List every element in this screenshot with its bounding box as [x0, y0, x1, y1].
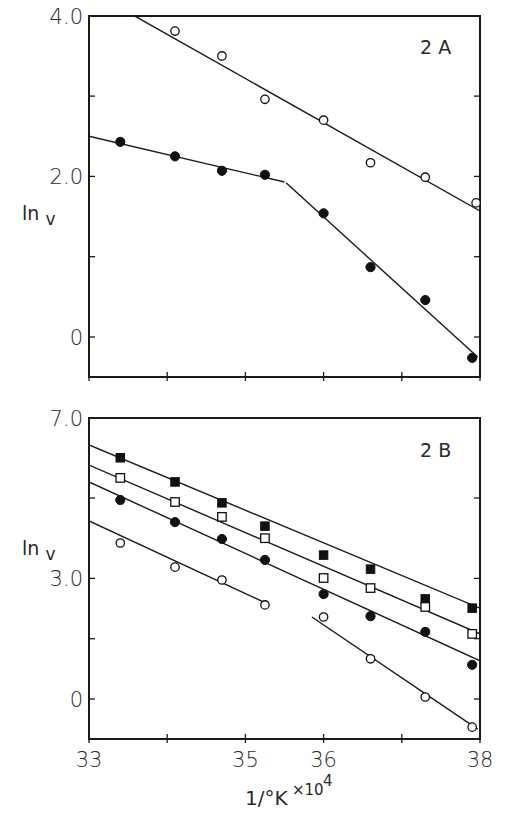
data-point [319, 116, 327, 124]
panel-label: 2 A [420, 36, 451, 58]
series-open-squares [89, 465, 480, 638]
arrhenius-figure: 4.02.00ln v2 A 7.03.0033353638ln v2 B 1/… [0, 0, 510, 825]
data-point [319, 613, 327, 621]
data-point [421, 693, 429, 701]
data-point [421, 173, 429, 181]
data-point [218, 52, 226, 60]
data-point [468, 353, 477, 362]
data-point [319, 551, 328, 560]
data-point [421, 595, 430, 604]
x-axis-multiplier: ×10 [292, 781, 324, 799]
data-point [366, 655, 374, 663]
fit-line [312, 617, 478, 729]
data-point [217, 534, 226, 543]
data-point [116, 454, 125, 463]
x-tick-label: 35 [232, 748, 259, 772]
y-tick-label: 7.0 [50, 407, 83, 431]
data-point [218, 576, 226, 584]
data-point [366, 159, 374, 167]
data-point [260, 170, 269, 179]
data-point [421, 627, 430, 636]
y-tick-label: 4.0 [50, 5, 83, 29]
data-point [366, 263, 375, 272]
y-tick-label: 0 [70, 688, 83, 712]
data-point [261, 534, 270, 543]
panel-label: 2 B [420, 439, 451, 461]
data-point [218, 513, 227, 522]
data-point [468, 723, 476, 731]
data-point [116, 495, 125, 504]
data-point [366, 612, 375, 621]
data-point [116, 539, 124, 547]
x-axis-title: 1/°K ×10 4 [245, 772, 333, 810]
x-tick-label: 36 [310, 748, 337, 772]
data-point [421, 603, 430, 612]
data-point [319, 574, 328, 583]
data-point [468, 630, 477, 639]
data-point [217, 166, 226, 175]
x-axis-exponent: 4 [323, 772, 333, 790]
y-axis-label: ln v [22, 202, 55, 229]
panel-2b: 7.03.0033353638ln v2 B [22, 407, 493, 772]
y-tick-label: 0 [70, 326, 83, 350]
data-point [319, 209, 328, 218]
x-tick-label: 38 [467, 748, 494, 772]
x-tick-label: 33 [76, 748, 103, 772]
data-point [260, 555, 269, 564]
series-open-circles [89, 521, 478, 731]
data-point [421, 295, 430, 304]
y-tick-label: 3.0 [50, 567, 83, 591]
fit-line [89, 445, 480, 608]
data-point [171, 27, 179, 35]
data-point [468, 660, 477, 669]
data-point [366, 565, 375, 574]
data-point [468, 604, 477, 613]
data-point [472, 199, 480, 207]
data-point [261, 95, 269, 103]
y-tick-label: 2.0 [50, 165, 83, 189]
panel-2a: 4.02.00ln v2 A [22, 5, 480, 381]
data-point [218, 499, 227, 508]
data-point [116, 137, 125, 146]
plot-frame [89, 16, 480, 377]
data-point [171, 498, 180, 507]
data-point [261, 601, 269, 609]
series-filled-circles [89, 136, 478, 362]
series-filled-squares [89, 445, 480, 612]
data-point [366, 584, 375, 593]
x-axis-label: 1/°K [245, 786, 288, 810]
data-point [319, 589, 328, 598]
y-axis-label: ln v [22, 537, 55, 564]
data-point [171, 563, 179, 571]
data-point [171, 478, 180, 487]
data-point [170, 152, 179, 161]
data-point [261, 522, 270, 531]
data-point [170, 518, 179, 527]
fit-line [286, 183, 478, 357]
series-filled-circles [89, 482, 480, 670]
data-point [116, 474, 125, 483]
fit-line [89, 521, 268, 604]
